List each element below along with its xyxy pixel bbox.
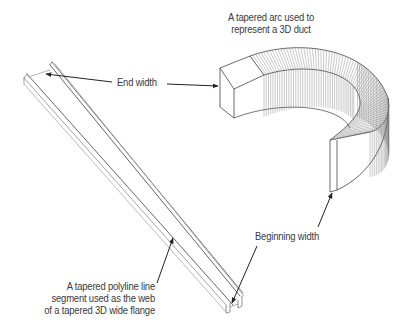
duct-caption: A tapered arc used to represent a 3D duc… (204, 11, 339, 35)
web-arrow (157, 238, 173, 283)
tapered-3d-duct (220, 48, 389, 192)
flange-caption-line1: A tapered polyline line (34, 280, 156, 292)
flange-caption-line3: of a tapered 3D wide flange (34, 304, 156, 316)
beginning-width-label: Beginning width (255, 230, 319, 242)
beginning-width-arrow-duct (318, 193, 332, 227)
duct-caption-line2: represent a 3D duct (204, 23, 339, 35)
diagram-canvas (0, 0, 397, 326)
flange-caption-line2: segment used as the web (34, 292, 156, 304)
end-width-label: End width (117, 76, 157, 88)
duct-caption-line1: A tapered arc used to (204, 11, 339, 23)
end-width-arrow-right (167, 84, 218, 86)
tapered-wide-flange (24, 62, 244, 313)
beginning-width-arrow-flange (232, 246, 257, 303)
leader-arrows (46, 74, 332, 303)
flange-caption: A tapered polyline line segment used as … (34, 280, 156, 316)
end-width-arrow-left (46, 74, 112, 82)
